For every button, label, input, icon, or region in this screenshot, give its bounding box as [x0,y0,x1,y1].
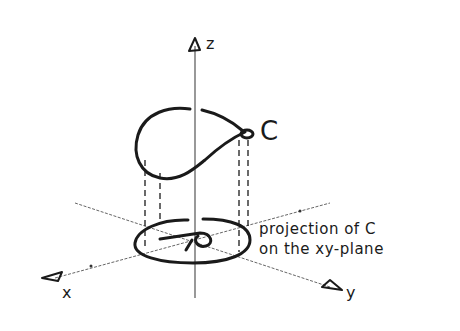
z-axis-label: z [206,34,214,53]
y-axis-tick-far [299,210,302,213]
curve-c-back-arc [202,110,243,131]
y-arrow-icon [322,280,342,290]
projection-inner-loop [160,233,211,250]
curve-c-projection [135,219,250,263]
projection-diagram: x y z C projection of C on the xy-plane [0,0,460,331]
x-axis-tick [90,265,93,268]
x-arrow-icon [42,272,62,281]
curve-c-label: C [260,116,278,146]
projection-lines [145,140,248,252]
annotation-line-1: projection of C [259,220,376,238]
y-axis-label: y [346,283,355,302]
annotation-line-2: on the xy-plane [259,240,384,258]
x-axis-label: x [62,283,71,302]
